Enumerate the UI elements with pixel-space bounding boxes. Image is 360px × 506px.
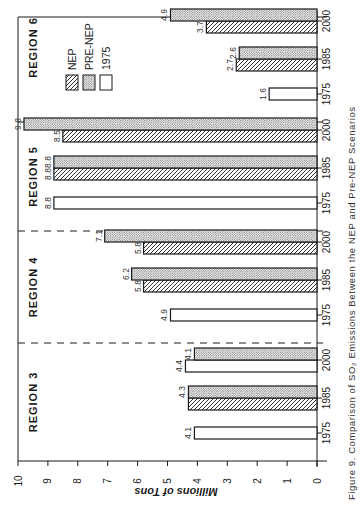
bar-nep (144, 242, 317, 254)
bar-value-label: 8.8 (43, 168, 53, 180)
bar-value-label: 2.6 (228, 47, 238, 59)
bar-nep (63, 130, 317, 142)
bar-value-label: 4.1 (183, 348, 193, 360)
bar-pre-nep (54, 156, 317, 168)
region-label: REGION 6 (27, 17, 39, 78)
bar-value-label: 8.8 (43, 156, 53, 168)
legend-swatch-pre-nep (83, 75, 95, 90)
category-label: 1985 (321, 47, 332, 70)
value-tick-label: 8 (72, 478, 83, 484)
value-tick-label: 5 (162, 478, 173, 484)
value-tick-label: 3 (222, 478, 233, 484)
value-tick-label: 4 (192, 478, 203, 484)
bar-value-label: 4.9 (159, 9, 169, 21)
bar-1975 (54, 197, 317, 209)
category-label: 2000 (321, 9, 332, 32)
bar-pre-nep (239, 47, 317, 59)
value-tick-label: 0 (312, 478, 323, 484)
bar-value-label: 8.5 (52, 130, 62, 142)
category-label: 1975 (321, 421, 332, 444)
bar-nep (144, 280, 317, 292)
bar-value-label: 3.7 (195, 21, 205, 33)
category-label: 1985 (321, 386, 332, 409)
bar-nep (236, 59, 317, 71)
category-label: 1975 (321, 191, 332, 214)
bar-value-label: 9.8 (13, 118, 23, 130)
value-tick-label: 1 (282, 478, 293, 484)
category-label: 1975 (321, 82, 332, 105)
region-label: REGION 3 (27, 372, 39, 433)
bar-value-label: 5.8 (133, 242, 143, 254)
bar-value-label: 5.8 (133, 280, 143, 292)
bar-1975 (170, 309, 317, 321)
bar-value-label: 4.4 (174, 360, 184, 372)
bar-pre-nep (194, 348, 317, 360)
bar-value-label: 4.1 (183, 427, 193, 439)
legend-label: PRE-NEP (83, 23, 95, 70)
legend-swatch-nep (66, 75, 78, 90)
legend-swatch-1975 (100, 75, 112, 90)
category-label: 1985 (321, 268, 332, 291)
figure-caption: Figure 9. Comparison of SO₂ Emissions Be… (346, 106, 357, 500)
legend-label: 1975 (100, 46, 112, 70)
value-tick-label: 9 (42, 478, 53, 484)
bar-pre-nep (188, 386, 317, 398)
emissions-bar-chart: 012345678910Millions of TonsREGION 31975… (0, 0, 360, 506)
bar-value-label: 4.3 (177, 386, 187, 398)
bar-value-label: 2.7 (225, 59, 235, 71)
bar-nep (206, 21, 317, 33)
bar-value-label: 4.9 (159, 309, 169, 321)
bar-pre-nep (24, 118, 317, 130)
bar-1975 (194, 427, 317, 439)
bar-nep (185, 360, 317, 372)
category-label: 2000 (321, 230, 332, 253)
bar-pre-nep (105, 230, 317, 242)
value-tick-label: 7 (102, 478, 113, 484)
region-label: REGION 5 (27, 146, 39, 207)
bar-nep (188, 398, 317, 410)
category-label: 2000 (321, 348, 332, 371)
bars-layer (24, 9, 317, 439)
bar-value-label: 6.2 (121, 268, 131, 280)
value-axis-title: Millions of Tons (134, 486, 217, 498)
bar-pre-nep (132, 268, 317, 280)
legend: NEPPRE-NEP1975 (66, 23, 112, 90)
value-tick-label: 6 (132, 478, 143, 484)
legend-label: NEP (66, 48, 78, 70)
region-label: REGION 4 (27, 257, 39, 318)
value-tick-label: 2 (252, 478, 263, 484)
value-tick-label: 10 (13, 475, 24, 487)
category-label: 1985 (321, 156, 332, 179)
bar-1975 (269, 88, 317, 100)
bar-nep (54, 168, 317, 180)
bar-value-label: 1.6 (258, 88, 268, 100)
bar-value-label: 8.8 (43, 197, 53, 209)
bar-value-label: 7.1 (94, 230, 104, 242)
category-label: 2000 (321, 118, 332, 141)
bar-pre-nep (170, 9, 317, 21)
category-label: 1975 (321, 303, 332, 326)
